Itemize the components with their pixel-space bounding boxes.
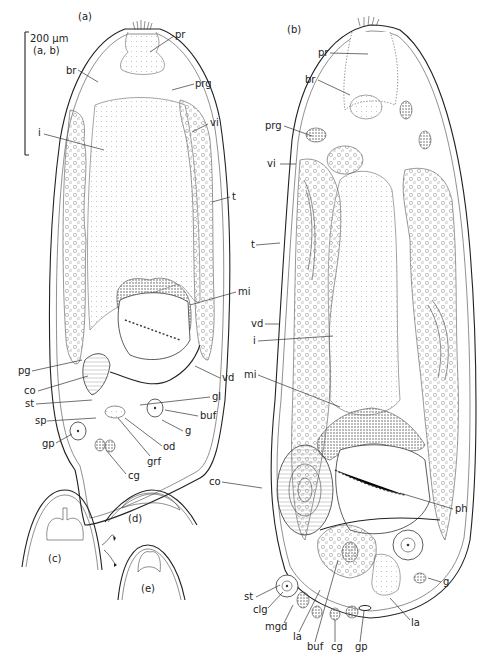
label-b-gp: gp bbox=[355, 641, 368, 652]
panel-c-title: (c) bbox=[48, 553, 61, 564]
label-a-br: br bbox=[66, 65, 77, 76]
label-a-grf: grf bbox=[147, 456, 161, 467]
panel-b-specimen bbox=[271, 16, 476, 620]
label-b-mi: mi bbox=[244, 369, 257, 380]
scale-bar-value: 200 μm bbox=[30, 33, 68, 44]
label-b-la-right: la bbox=[411, 617, 420, 628]
label-a-mi: mi bbox=[238, 286, 251, 297]
scale-bar bbox=[25, 32, 29, 155]
label-b-vd: vd bbox=[251, 318, 263, 329]
panel-e-title: (e) bbox=[141, 583, 155, 594]
panel-a-specimen bbox=[49, 20, 229, 525]
label-b-la-left: la bbox=[293, 631, 302, 642]
label-a-g: g bbox=[185, 425, 191, 436]
panel-a-title: (a) bbox=[78, 11, 92, 22]
label-b-prg: prg bbox=[265, 120, 282, 131]
label-a-t: t bbox=[232, 191, 236, 202]
label-a-pg: pg bbox=[18, 365, 31, 376]
label-a-st: st bbox=[25, 398, 34, 409]
label-b-ph: ph bbox=[455, 503, 468, 514]
label-a-gp: gp bbox=[42, 438, 55, 449]
label-b-pr: pr bbox=[318, 47, 329, 58]
scale-bar-scope: (a, b) bbox=[33, 45, 60, 56]
figure-canvas: (a) 200 μm (a, b) pr br prg vi i t mi pg… bbox=[0, 0, 486, 668]
panel-b-title: (b) bbox=[287, 24, 301, 35]
label-a-co: co bbox=[24, 385, 36, 396]
label-b-clg: clg bbox=[253, 604, 268, 615]
panel-d-title: (d) bbox=[128, 513, 142, 524]
label-b-buf: buf bbox=[307, 641, 324, 652]
label-a-i: i bbox=[38, 127, 41, 138]
label-b-cg: cg bbox=[331, 641, 343, 652]
label-b-br: br bbox=[305, 74, 316, 85]
label-a-prg: prg bbox=[195, 78, 212, 89]
label-b-vi: vi bbox=[267, 158, 276, 169]
panel-e: (e) bbox=[118, 545, 185, 600]
label-a-vi: vi bbox=[210, 117, 219, 128]
label-b-i: i bbox=[253, 335, 256, 346]
label-a-buf: buf bbox=[200, 410, 217, 421]
label-b-t: t bbox=[251, 239, 255, 250]
label-a-pr: pr bbox=[175, 29, 186, 40]
label-a-od: od bbox=[163, 441, 175, 452]
panel-c: (c) bbox=[22, 490, 117, 570]
label-b-st: st bbox=[244, 591, 253, 602]
label-a-vd: vd bbox=[222, 372, 234, 383]
label-a-gl: gl bbox=[212, 391, 221, 402]
label-a-cg: cg bbox=[128, 470, 140, 481]
label-b-co: co bbox=[209, 476, 221, 487]
label-a-sp: sp bbox=[35, 415, 47, 426]
label-b-g: g bbox=[443, 576, 449, 587]
